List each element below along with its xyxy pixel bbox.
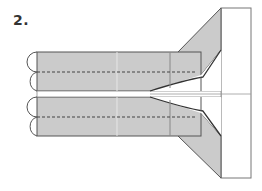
right-panel — [221, 8, 251, 178]
rounded-edge-3 — [27, 97, 37, 117]
rounded-edge-1 — [27, 52, 37, 72]
origami-diagram — [0, 0, 262, 191]
rounded-edge-4 — [30, 117, 37, 136]
rounded-edge-2 — [30, 72, 37, 91]
